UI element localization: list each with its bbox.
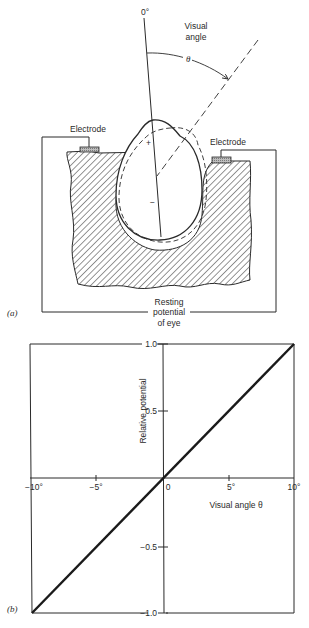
x-tick-10: 10° [288,482,301,492]
x-tick-5: 5° [227,482,235,492]
electrode-left-label: Electrode [70,124,106,134]
x-tick-minus10: −10° [25,482,43,492]
gaze-direction-dashed [157,40,258,176]
panel-a: θ 0° Visual angle Electrode Electrode + … [7,7,276,328]
electrode-left [80,147,99,152]
resting-label-2: potential [153,307,185,317]
x-tick-0: 0 [166,482,171,492]
electrode-right [212,157,231,163]
eyeball-solid [116,120,202,240]
zero-degree-label: 0° [141,7,149,17]
visual-angle-label-2: angle [186,32,207,42]
plus-sign: + [146,138,151,148]
visual-angle-label-1: Visual [185,21,208,31]
y-axis-label: Relative potential [138,378,148,443]
resting-label-1: Resting [155,297,184,307]
theta-symbol: θ [186,54,191,64]
y-tick-minus1: −1.0 [140,608,157,618]
panel-a-label: (a) [7,308,18,318]
y-tick-minus0.5: −0.5 [140,542,157,552]
x-axis-label: Visual angle θ [209,500,263,510]
y-tick-1: 1.0 [145,339,157,349]
figure: θ 0° Visual angle Electrode Electrode + … [0,0,309,628]
x-tick-minus5: −5° [89,482,102,492]
panel-b-label: (b) [7,604,18,614]
minus-sign: − [150,197,155,207]
panel-b: −10° −5° 0 5° 10° 1.0 0.5 −0.5 −1.0 Rela… [7,339,300,618]
resting-label-3: of eye [157,318,180,328]
electrode-right-label: Electrode [210,137,246,147]
